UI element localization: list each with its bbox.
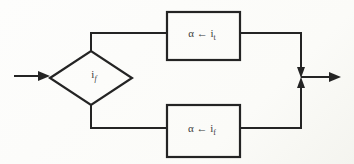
process-bottom-label: α ← if bbox=[188, 122, 216, 137]
branch-bottom-connector bbox=[91, 105, 167, 128]
bottom-box-to-merge-connector bbox=[240, 85, 301, 128]
branch-top-connector bbox=[91, 33, 167, 51]
flowchart-canvas: if α ← it α ← if bbox=[0, 0, 354, 164]
flowchart-diagram: if α ← it α ← if bbox=[0, 0, 354, 164]
input-arrowhead-icon bbox=[38, 71, 50, 81]
decision-label: if bbox=[91, 68, 98, 83]
output-arrowhead-icon bbox=[329, 72, 341, 82]
top-box-to-merge-connector bbox=[240, 33, 301, 70]
merge-arrowhead-up-icon bbox=[297, 77, 305, 88]
process-top-label: α ← it bbox=[188, 27, 216, 42]
